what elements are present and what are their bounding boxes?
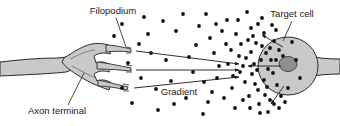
gradient-dot xyxy=(270,23,274,27)
gradient-dot xyxy=(266,67,270,71)
diagram-canvas: Filopodium Target cell Axon terminal Gra… xyxy=(0,0,340,126)
guidance-arrow-upper xyxy=(136,51,239,64)
label-axon-terminal: Axon terminal xyxy=(28,105,86,116)
gradient-dot xyxy=(260,44,264,48)
gradient-dot xyxy=(225,18,229,22)
gradient-dot xyxy=(262,31,266,35)
gradient-dot xyxy=(237,54,241,58)
gradient-dot xyxy=(187,55,191,59)
gradient-dot xyxy=(181,12,185,16)
gradient-dot xyxy=(268,98,272,102)
gradient-dot xyxy=(204,12,208,16)
label-gradient: Gradient xyxy=(161,86,198,97)
gradient-dot xyxy=(265,85,269,89)
gradient-dot xyxy=(212,51,216,55)
gradient-dot xyxy=(257,102,261,106)
gradient-dot xyxy=(252,62,256,66)
gradient-dot xyxy=(201,112,205,116)
guidance-arrows xyxy=(134,51,239,88)
gradient-dot xyxy=(281,54,285,58)
gradient-dot xyxy=(234,32,238,36)
gradient-dot xyxy=(255,68,259,72)
gradient-dot xyxy=(262,78,266,82)
gradient-dot xyxy=(256,22,260,26)
gradient-dot xyxy=(229,48,233,52)
gradient-dot xyxy=(244,56,248,60)
gradient-dot xyxy=(126,61,130,65)
gradient-dot xyxy=(247,94,251,98)
label-filopodium: Filopodium xyxy=(90,5,137,16)
gradient-dot xyxy=(243,80,247,84)
gradient-dot xyxy=(277,48,281,52)
gradient-dot xyxy=(154,87,158,91)
gradient-dot xyxy=(120,86,124,90)
gradient-dot xyxy=(241,98,245,102)
gradient-dot xyxy=(250,72,254,76)
gradient-dot xyxy=(139,76,143,80)
target-cell-nucleus xyxy=(279,57,297,72)
gradient-dot xyxy=(251,34,255,38)
gradient-dot xyxy=(279,94,283,98)
gradient-dot xyxy=(274,28,278,32)
gradient-dot xyxy=(146,32,150,36)
gradient-dot xyxy=(224,42,228,46)
gradient-dot xyxy=(142,15,146,19)
gradient-dot xyxy=(298,76,302,80)
gradient-dot xyxy=(197,24,201,28)
label-target-cell: Target cell xyxy=(270,8,313,19)
gradient-dot xyxy=(217,64,221,68)
leader-line-filopodium xyxy=(116,18,126,47)
gradient-dot xyxy=(286,86,290,90)
leader-line-axon-terminal xyxy=(68,73,84,105)
gradient-dot xyxy=(260,16,264,20)
gradient-dot xyxy=(263,93,267,97)
gradient-dot xyxy=(120,22,124,26)
gradient-dot xyxy=(191,70,195,74)
gradient-dot xyxy=(236,18,240,22)
gradient-dot xyxy=(277,106,281,110)
gradient-dot xyxy=(249,50,253,54)
gradient-dot xyxy=(239,42,243,46)
gradient-dot xyxy=(272,102,276,106)
gradient-dot xyxy=(266,110,270,114)
axon-guidance-diagram: Filopodium Target cell Axon terminal Gra… xyxy=(0,0,340,126)
gradient-dot xyxy=(169,79,173,83)
gradient-dot xyxy=(245,10,249,14)
gradient-dot xyxy=(259,58,263,62)
gradient-dot xyxy=(294,58,298,62)
gradient-dot xyxy=(172,102,176,106)
gradient-dot xyxy=(290,40,294,44)
gradient-dot xyxy=(253,82,257,86)
gradient-dot xyxy=(269,58,273,62)
gradient-dot xyxy=(274,58,278,62)
gradient-dot xyxy=(238,70,242,74)
gradient-dot xyxy=(156,108,160,112)
gradient-dot xyxy=(233,106,237,110)
gradient-dot xyxy=(206,100,210,104)
gradient-dot xyxy=(248,106,252,110)
gradient-dot xyxy=(254,41,258,45)
gradient-dot xyxy=(130,101,134,105)
gradient-dot xyxy=(220,29,224,33)
gradient-dot xyxy=(275,83,279,87)
gradient-dot xyxy=(271,71,275,75)
gradient-dot xyxy=(214,22,218,26)
gradient-dot xyxy=(241,64,245,68)
filopodium-upper xyxy=(106,45,131,52)
gradient-dot xyxy=(230,86,234,90)
gradient-dot xyxy=(174,29,178,33)
axon-structure xyxy=(0,43,112,90)
gradient-dot xyxy=(112,34,116,38)
gradient-dot xyxy=(208,36,212,40)
gradient-dot xyxy=(283,100,287,104)
gradient-dot xyxy=(249,26,253,30)
gradient-dot xyxy=(258,111,262,115)
gradient-dot xyxy=(137,42,141,46)
gradient-dot xyxy=(246,38,250,42)
gradient-dot xyxy=(268,46,272,50)
gradient-dot xyxy=(222,96,226,100)
gradient-dot xyxy=(161,19,165,23)
gradient-dot xyxy=(264,51,268,55)
gradient-dot xyxy=(164,58,168,62)
gradient-dot xyxy=(256,88,260,92)
